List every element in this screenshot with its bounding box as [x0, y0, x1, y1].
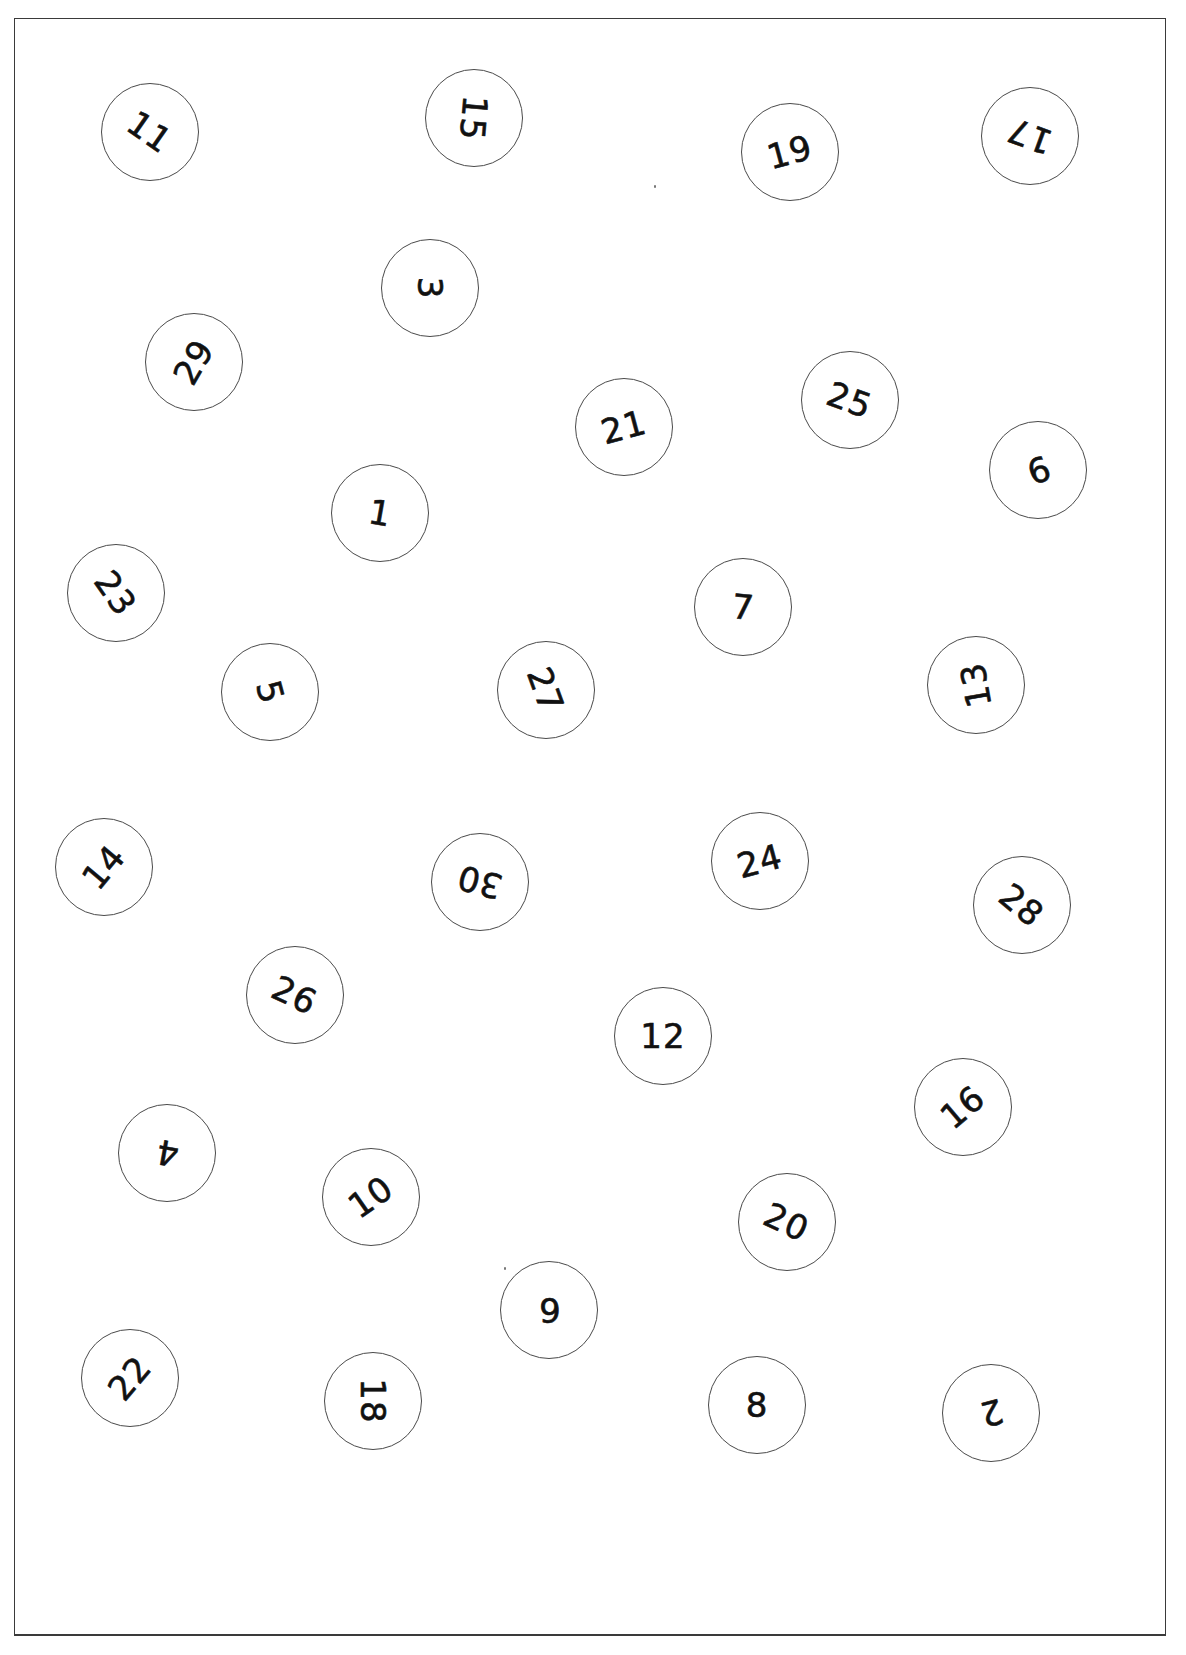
- scan-speck: [504, 1267, 506, 1270]
- number-circle-12[interactable]: 12: [614, 987, 712, 1085]
- number-circle-5[interactable]: 5: [221, 643, 319, 741]
- number-circle-14[interactable]: 14: [55, 818, 153, 916]
- number-circle-13[interactable]: 13: [927, 636, 1025, 734]
- circle-number-label: 16: [935, 1079, 992, 1134]
- circle-number-label: 26: [267, 970, 322, 1020]
- number-circle-27[interactable]: 27: [497, 641, 595, 739]
- number-circle-9[interactable]: 9: [989, 421, 1087, 519]
- circle-number-label: 4: [153, 1134, 181, 1171]
- number-circle-1[interactable]: 1: [331, 464, 429, 562]
- number-circle-4[interactable]: 4: [118, 1104, 216, 1202]
- number-circle-15[interactable]: 15: [425, 69, 523, 167]
- circle-number-label: 23: [89, 565, 143, 622]
- circle-number-label: 24: [734, 839, 787, 884]
- number-circle-28[interactable]: 28: [973, 856, 1071, 954]
- circle-number-label: 12: [640, 1019, 685, 1053]
- number-circle-7[interactable]: 7: [694, 558, 792, 656]
- circle-number-label: 8: [746, 1388, 769, 1422]
- number-circle-23[interactable]: 23: [67, 544, 165, 642]
- number-circle-30[interactable]: 30: [431, 833, 529, 931]
- scan-speck: [654, 185, 656, 188]
- number-circle-17[interactable]: 17: [981, 87, 1079, 185]
- circle-number-label: 28: [994, 877, 1051, 932]
- circle-number-label: 11: [122, 105, 179, 159]
- number-circle-29[interactable]: 29: [145, 313, 243, 411]
- circle-number-label: 29: [168, 334, 220, 390]
- worksheet-page: 1115191732921259123752713143024282612164…: [0, 0, 1186, 1655]
- circle-number-label: 5: [251, 677, 290, 708]
- circle-number-label: 22: [102, 1350, 157, 1407]
- circle-number-label: 19: [764, 130, 817, 175]
- number-circle-6[interactable]: 6: [500, 1261, 598, 1359]
- number-circle-26[interactable]: 26: [246, 946, 344, 1044]
- circle-number-label: 1: [366, 494, 394, 531]
- number-circle-8[interactable]: 8: [708, 1356, 806, 1454]
- number-circle-16[interactable]: 16: [914, 1058, 1012, 1156]
- number-circle-21[interactable]: 21: [575, 378, 673, 476]
- number-circle-19[interactable]: 19: [741, 103, 839, 201]
- circle-number-label: 21: [598, 405, 651, 450]
- circle-number-label: 3: [413, 277, 447, 300]
- circle-number-label: 30: [454, 860, 507, 905]
- circle-number-label: 20: [759, 1197, 814, 1247]
- circle-number-label: 15: [455, 94, 493, 142]
- circle-number-label: 9: [1022, 450, 1055, 490]
- number-circle-20[interactable]: 20: [738, 1173, 836, 1271]
- number-circle-25[interactable]: 25: [801, 351, 899, 449]
- circle-number-label: 17: [1003, 112, 1057, 159]
- circle-number-label: 25: [823, 376, 877, 423]
- circle-number-label: 7: [730, 589, 756, 625]
- number-circle-11[interactable]: 11: [101, 83, 199, 181]
- number-circle-24[interactable]: 24: [711, 812, 809, 910]
- number-circle-22[interactable]: 22: [81, 1329, 179, 1427]
- number-circle-2[interactable]: 2: [942, 1364, 1040, 1462]
- number-circle-3[interactable]: 3: [381, 239, 479, 337]
- number-circle-10[interactable]: 10: [322, 1148, 420, 1246]
- circle-number-label: 14: [76, 839, 131, 896]
- circle-number-label: 6: [538, 1293, 561, 1327]
- circle-number-label: 18: [356, 1378, 390, 1423]
- circle-number-label: 10: [343, 1170, 400, 1224]
- circle-number-label: 13: [955, 660, 996, 710]
- circle-number-label: 2: [976, 1394, 1007, 1433]
- number-circle-18[interactable]: 18: [324, 1352, 422, 1450]
- circle-number-label: 27: [522, 663, 569, 717]
